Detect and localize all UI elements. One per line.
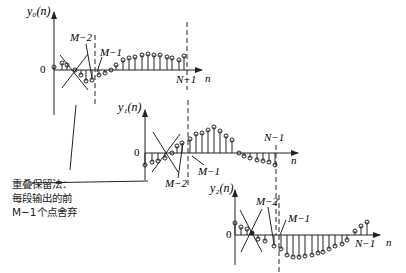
annotation-line-2: 每段输出的前 — [12, 191, 77, 205]
y0-x-label: n — [205, 72, 211, 84]
y2-n1-label: N−1 — [355, 237, 375, 249]
y0-zero-label: 0 — [40, 63, 46, 75]
y0-m1-label: M−1 — [100, 46, 122, 58]
y1-m1-label: M−1 — [198, 165, 220, 177]
y2-ylabel: y₂(n) — [210, 181, 234, 196]
y1-n1-label: N−1 — [264, 131, 284, 143]
overlap-save-annotation: 重叠保留法： 每段输出的前 M−1个点舍弃 — [12, 177, 77, 219]
y2-m2-label: M−2 — [256, 195, 278, 207]
y2-zero-label: 0 — [226, 228, 232, 240]
y0-m2-label: M−2 — [70, 31, 92, 43]
y2-x-label: n — [386, 236, 392, 248]
y1-x-label: n — [291, 154, 297, 166]
y1-zero-label: 0 — [134, 146, 140, 158]
overlap-save-diagram — [0, 0, 406, 273]
y1-m2-label: M−2 — [165, 177, 187, 189]
y1-stems — [143, 125, 277, 167]
annotation-line-3: M−1个点舍弃 — [12, 205, 77, 219]
y1-ylabel: y₁(n) — [118, 100, 142, 115]
y0-ylabel: y₀(n) — [27, 4, 51, 19]
annotation-line-1: 重叠保留法： — [12, 177, 77, 191]
y0-n1-label: N−1 — [176, 73, 196, 85]
y0-cross-b — [62, 54, 88, 88]
y2-m1-label: M−1 — [288, 212, 310, 224]
